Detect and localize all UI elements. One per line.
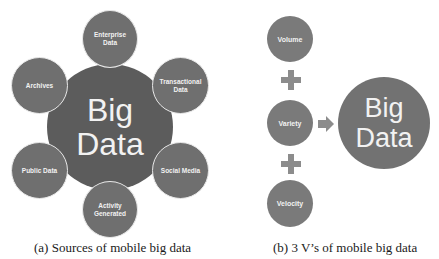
source-social-media: Social Media (152, 142, 209, 199)
source-activity-generated: Activity Generated (82, 181, 138, 238)
source-label: Social Media (161, 167, 200, 175)
source-label: Transactional (160, 78, 202, 86)
source-label: Data (94, 39, 126, 47)
source-archives: Archives (11, 57, 68, 114)
caption-a: (a) Sources of mobile big data (34, 240, 191, 256)
center-line1: Big (76, 93, 144, 127)
source-label: Activity (94, 202, 126, 210)
v-volume-circle: Volume (267, 16, 313, 62)
source-label: Generated (94, 210, 126, 218)
source-transactional-data: Transactional Data (152, 57, 209, 114)
source-public-data: Public Data (11, 142, 68, 199)
right-arrow-icon (318, 116, 334, 132)
plus-icon (281, 154, 301, 174)
caption-b: (b) 3 V’s of mobile big data (273, 240, 417, 256)
center-line2: Data (76, 127, 144, 161)
plus-icon (281, 70, 301, 90)
source-label: Data (160, 86, 202, 94)
v-label: Velocity (277, 200, 303, 207)
source-label: Public Data (22, 167, 57, 175)
big-data-result-circle: Big Data (338, 77, 430, 169)
result-line2: Data (355, 123, 412, 153)
result-line1: Big (355, 93, 412, 123)
source-label: Archives (26, 82, 53, 90)
v-label: Variety (279, 120, 302, 127)
v-velocity-circle: Velocity (267, 180, 313, 227)
v-label: Volume (278, 36, 303, 43)
source-label: Enterprise (94, 31, 126, 39)
source-enterprise-data: Enterprise Data (82, 10, 138, 68)
v-variety-circle: Variety (267, 100, 313, 146)
